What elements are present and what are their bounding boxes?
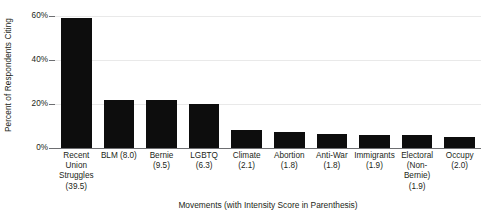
category-label-line: Occupy (433, 151, 487, 161)
bar (146, 100, 177, 148)
bar (189, 104, 220, 148)
bar (444, 137, 475, 148)
x-axis-title: Movements (with Intensity Score in Paren… (55, 200, 481, 210)
category-label-line: (2.0) (433, 161, 487, 171)
y-axis-ticks: 0%20%40%60% (8, 0, 48, 221)
y-axis-tick-label: 0% (8, 144, 48, 152)
bar-chart-figure: Percent of Respondents Citing 0%20%40%60… (0, 0, 493, 221)
category-label-line: (39.5) (49, 182, 103, 192)
y-axis-tick-mark (49, 16, 55, 17)
bar (104, 100, 135, 148)
x-axis-category-labels: RecentUnionStruggles(39.5)BLM (8.0)Berni… (55, 151, 481, 199)
bar (61, 18, 92, 148)
bar (317, 134, 348, 148)
category-label-line: Union (49, 161, 103, 171)
y-axis-tick-mark (49, 60, 55, 61)
category-label-line: Bernie) (390, 171, 444, 181)
x-axis-line (55, 148, 481, 149)
x-axis-category-label: Occupy(2.0) (433, 151, 487, 171)
y-axis-tick-label: 20% (8, 100, 48, 108)
bars-layer (55, 16, 481, 148)
bar (274, 132, 305, 149)
y-axis-tick-label: 60% (8, 12, 48, 20)
y-axis-tick-mark (49, 148, 55, 149)
category-label-line: (1.9) (390, 182, 444, 192)
bar (402, 135, 433, 148)
category-label-line: Struggles (49, 171, 103, 181)
bar (231, 130, 262, 148)
bar (359, 135, 390, 148)
y-axis-tick-label: 40% (8, 56, 48, 64)
y-axis-tick-mark (49, 104, 55, 105)
